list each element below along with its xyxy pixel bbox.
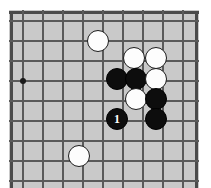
grid-line-horizontal-2 xyxy=(9,60,199,62)
grid-line-horizontal-6 xyxy=(9,140,199,142)
stone-white-5[interactable] xyxy=(125,88,147,110)
stone-move-number: 1 xyxy=(114,113,120,125)
grid-line-horizontal-0 xyxy=(9,20,199,22)
go-diagram-screenshot: 1 xyxy=(0,0,211,188)
board-edge-top xyxy=(9,11,199,14)
stone-black-2[interactable] xyxy=(125,68,147,90)
go-board[interactable]: 1 xyxy=(9,10,199,188)
grid-line-horizontal-4 xyxy=(9,100,199,102)
grid-line-horizontal-5 xyxy=(9,120,199,122)
stone-black-move-1[interactable]: 1 xyxy=(106,108,128,130)
stone-black-3[interactable] xyxy=(145,88,167,110)
grid-line-horizontal-3 xyxy=(9,80,199,82)
stone-black-4[interactable] xyxy=(145,108,167,130)
stone-white-4[interactable] xyxy=(145,68,167,90)
grid-line-horizontal-7 xyxy=(9,160,199,162)
stone-white-6[interactable] xyxy=(68,145,90,167)
stone-white-2[interactable] xyxy=(123,47,145,69)
grid-line-horizontal-8 xyxy=(9,180,199,182)
stone-white-3[interactable] xyxy=(145,47,167,69)
star-point-left xyxy=(20,78,26,84)
stone-white-1[interactable] xyxy=(87,30,109,52)
